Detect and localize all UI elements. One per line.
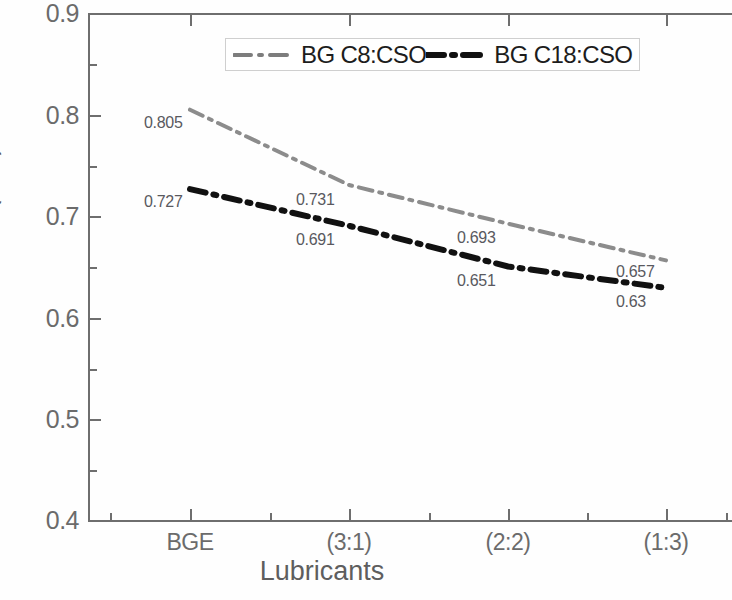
legend-swatch-bg-c8-cso	[233, 46, 295, 64]
chart-legend: BG C8:CSO BG C18:CSO	[225, 38, 640, 71]
chart-page: Wear Scar Diameter(mm) 0.9 0.8 0.7 0.6 0…	[0, 0, 732, 600]
y-tick-label-0.9: 0.9	[46, 0, 79, 28]
y-tick-label-0.7: 0.7	[46, 202, 79, 231]
x-tick-label-1-3: (1:3)	[644, 529, 689, 556]
point-label-s2-p4: 0.63	[616, 293, 646, 311]
x-tick-label-3-1: (3:1)	[327, 529, 372, 556]
x-tick-label-bge: BGE	[166, 529, 213, 556]
point-label-s2-p1: 0.727	[144, 193, 183, 211]
point-label-s1-p2: 0.731	[296, 191, 335, 209]
point-label-s1-p1: 0.805	[144, 114, 183, 132]
point-label-s1-p4: 0.657	[616, 263, 655, 281]
y-tick-label-0.5: 0.5	[46, 405, 79, 434]
plot-area: 0.9 0.8 0.7 0.6 0.5 0.4 BGE (3:1) (2:2) …	[88, 13, 732, 522]
point-label-s1-p3: 0.693	[457, 229, 496, 247]
legend-entry-bg-c18-cso: BG C18:CSO	[426, 41, 632, 69]
point-label-s2-p3: 0.651	[457, 272, 496, 290]
y-tick-label-0.8: 0.8	[46, 101, 79, 130]
series-line-bg-c8-cso	[190, 110, 666, 261]
legend-entry-bg-c8-cso: BG C8:CSO	[233, 41, 426, 69]
legend-label-bg-c18-cso: BG C18:CSO	[494, 41, 632, 69]
x-axis-title: Lubricants	[260, 556, 385, 587]
legend-label-bg-c8-cso: BG C8:CSO	[301, 41, 426, 69]
y-axis-title: Wear Scar Diameter(mm)	[0, 146, 2, 453]
x-tick-label-2-2: (2:2)	[486, 529, 531, 556]
y-tick-label-0.6: 0.6	[46, 304, 79, 333]
legend-swatch-bg-c18-cso	[426, 46, 488, 64]
y-tick-label-0.4: 0.4	[46, 506, 79, 535]
point-label-s2-p2: 0.691	[296, 231, 335, 249]
